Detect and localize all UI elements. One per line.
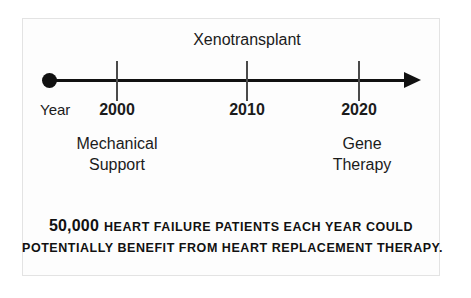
- caption-line-1: 50,000HEART FAILURE PATIENTS EACH YEAR C…: [22, 216, 440, 237]
- timeline-arrow-icon: [404, 72, 421, 88]
- timeline-tick-2000: [116, 61, 118, 101]
- timeline-axis-line: [52, 79, 410, 82]
- figure-caption: 50,000HEART FAILURE PATIENTS EACH YEAR C…: [22, 216, 440, 258]
- event-label-gene-therapy-line2: Therapy: [333, 154, 392, 175]
- tick-label-2010: 2010: [229, 101, 265, 119]
- timeline-tick-2020: [358, 61, 360, 101]
- caption-line-1-text: HEART FAILURE PATIENTS EACH YEAR COULD: [104, 220, 413, 234]
- event-label-xenotransplant: Xenotransplant: [193, 31, 301, 49]
- event-label-mechanical-support-line1: Mechanical: [77, 133, 158, 154]
- caption-highlight-number: 50,000: [49, 217, 99, 234]
- timeline-tick-2010: [246, 61, 248, 101]
- event-label-mechanical-support-line2: Support: [77, 154, 158, 175]
- caption-line-2: POTENTIALLY BENEFIT FROM HEART REPLACEME…: [22, 237, 440, 258]
- event-label-gene-therapy-line1: Gene: [333, 133, 392, 154]
- axis-caption-year: Year: [40, 101, 70, 118]
- event-label-gene-therapy: Gene Therapy: [333, 133, 392, 175]
- tick-label-2020: 2020: [341, 101, 377, 119]
- event-label-mechanical-support: Mechanical Support: [77, 133, 158, 175]
- tick-label-2000: 2000: [99, 101, 135, 119]
- timeline-figure: Year 2000 2010 2020 Xenotransplant Mecha…: [0, 0, 471, 298]
- caption-line-2-text: POTENTIALLY BENEFIT FROM HEART REPLACEME…: [22, 241, 443, 255]
